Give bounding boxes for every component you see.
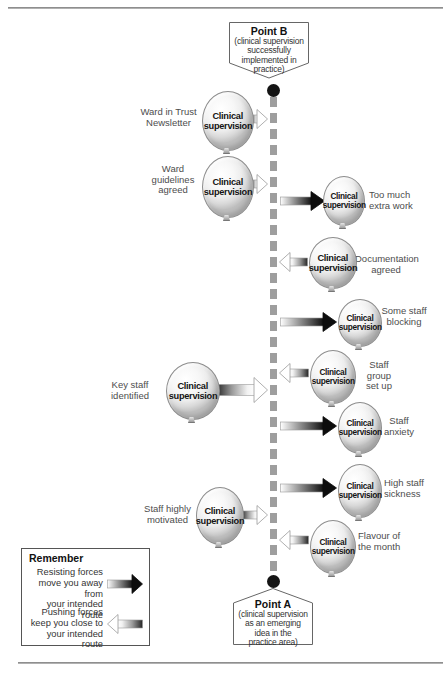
force-label-staff-group-set-up: Staff groupset up [357, 360, 401, 392]
balloon-text-line2: supervision [204, 187, 253, 198]
point-a-banner: Point A (clinical supervisionas an emerg… [233, 588, 313, 645]
resisting-force-arrow [280, 191, 325, 215]
legend-text-pushing: Pushing forceskeep you close toyour inte… [24, 607, 103, 650]
pushing-force-arrow [241, 505, 268, 529]
force-label-too-much-extra-work: Too muchextra work [369, 190, 419, 211]
force-label-line: identified [104, 391, 156, 402]
remember-legend-box: Remember Resisting forcesmove you away f… [21, 548, 150, 646]
force-label-documentation-agreed: Documentationagreed [355, 254, 417, 275]
legend-text-line: Pushing forces [24, 607, 103, 618]
clinical-supervision-balloon: Clinicalsupervision [202, 156, 254, 218]
legend-text-line: keep you close to [24, 618, 103, 629]
force-label-line: Ward [145, 164, 201, 175]
intended-route-dashed-line [270, 97, 277, 574]
pushing-force-arrow [216, 377, 268, 407]
balloon-text-line2: supervision [311, 547, 354, 556]
force-label-line: Staff group [357, 360, 401, 381]
balloon-text-line2: supervision [338, 323, 381, 332]
clinical-supervision-balloon: Clinicalsupervision [323, 176, 365, 226]
point_b-line: practice) [229, 65, 309, 74]
force-label-line: High staff [384, 478, 430, 489]
pushing-force-arrow [279, 252, 308, 276]
legend-title: Remember [29, 552, 83, 564]
force-label-line: Too much [369, 190, 419, 201]
force-label-key-staff-identified: Key staffidentified [104, 380, 156, 401]
force-label-some-staff-blocking: Some staffblocking [381, 306, 427, 327]
resisting-force-arrow [280, 312, 337, 336]
clinical-supervision-balloon: Clinicalsupervision [310, 520, 356, 574]
force-label-staff-anxiety: Staffanxiety [383, 416, 415, 437]
balloon-text-line2: supervision [169, 391, 218, 402]
force-label-line: set up [357, 381, 401, 392]
clinical-supervision-balloon: Clinicalsupervision [338, 402, 382, 454]
force-label-high-staff-sickness: High staffsickness [384, 478, 430, 499]
resisting-force-arrow [280, 478, 337, 502]
force-label-line: Newsletter [135, 118, 202, 129]
point-b-dot [267, 84, 280, 97]
point_a-line: practice area) [233, 638, 313, 647]
balloon-text-line2: supervision [322, 201, 365, 210]
balloon-text-line2: supervision [309, 263, 358, 274]
resisting-force-arrow [280, 416, 337, 440]
clinical-supervision-balloon: Clinicalsupervision [338, 464, 382, 518]
balloon-text-line2: supervision [311, 377, 354, 386]
force-label-line: anxiety [383, 427, 415, 438]
clinical-supervision-balloon: Clinicalsupervision [310, 350, 356, 404]
point-b-banner: Point B (clinical supervisionsuccessfull… [229, 22, 309, 79]
clinical-supervision-balloon: Clinicalsupervision [196, 487, 244, 545]
force-label-staff-highly-motivated: Staff highlymotivated [140, 504, 195, 525]
force-label-line: Flavour of [358, 531, 406, 542]
balloon-text-line2: supervision [204, 121, 253, 132]
force-label-line: agreed [355, 265, 417, 276]
force-label-flavour-of-the-month: Flavour ofthe month [358, 531, 406, 552]
force-label-line: Documentation [355, 254, 417, 265]
clinical-supervision-balloon: Clinicalsupervision [202, 91, 254, 151]
force-label-ward-in-trust-newsletter: Ward in TrustNewsletter [135, 107, 202, 128]
force-label-line: extra work [369, 201, 419, 212]
force-label-line: Ward in Trust [135, 107, 202, 118]
force-label-line: sickness [384, 489, 430, 500]
legend-text-line: Resisting forces [24, 567, 103, 578]
pushing-legend-arrow [107, 614, 143, 638]
legend-text-line: move you away from [24, 578, 103, 600]
balloon-text-line2: supervision [338, 491, 381, 500]
point-b-description: (clinical supervisionsuccessfullyimpleme… [229, 37, 309, 75]
balloon-text-line2: supervision [338, 428, 381, 437]
force-label-line: blocking [381, 317, 427, 328]
pushing-force-arrow [279, 363, 309, 387]
force-label-line: the month [358, 542, 406, 553]
force-label-ward-guidelines-agreed: Wardguidelinesagreed [145, 164, 201, 196]
force-label-line: Staff highly [140, 504, 195, 515]
diagram-page: Point B (clinical supervisionsuccessfull… [0, 0, 443, 683]
force-label-line: Key staff [104, 380, 156, 391]
point-a-description: (clinical supervisionas an emergingidea … [233, 610, 313, 648]
force-label-line: Some staff [381, 306, 427, 317]
pushing-force-arrow [279, 530, 309, 554]
legend-text-line: your intended route [24, 629, 103, 651]
clinical-supervision-balloon: Clinicalsupervision [166, 362, 220, 420]
force-label-line: agreed [145, 185, 201, 196]
bottom-page-rule [18, 662, 443, 664]
point-a-dot [267, 575, 280, 588]
force-label-line: motivated [140, 515, 195, 526]
top-page-rule [8, 7, 443, 9]
clinical-supervision-balloon: Clinicalsupervision [338, 299, 382, 347]
resisting-legend-arrow [107, 574, 143, 598]
clinical-supervision-balloon: Clinicalsupervision [309, 237, 357, 289]
balloon-text-line2: supervision [196, 516, 245, 527]
force-label-line: Staff [383, 416, 415, 427]
